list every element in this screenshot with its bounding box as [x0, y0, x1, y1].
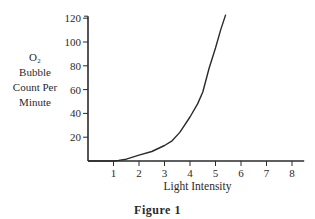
- x-tick-label: 8: [289, 167, 295, 179]
- y-tick-label: 100: [65, 36, 82, 48]
- y-tick-label: 60: [70, 84, 82, 96]
- x-tick-label: 1: [111, 167, 117, 179]
- y-tick-label: 120: [65, 12, 82, 24]
- figure-caption: Figure 1: [0, 203, 315, 218]
- y-tick-label: 80: [70, 60, 82, 72]
- x-tick-label: 3: [162, 167, 168, 179]
- y-tick-label: 40: [70, 107, 82, 119]
- axes: [84, 16, 304, 161]
- data-line: [88, 15, 226, 161]
- x-axis-label: Light Intensity: [130, 180, 265, 192]
- x-tick-label: 6: [238, 167, 244, 179]
- x-tick-label: 7: [264, 167, 270, 179]
- x-tick-label: 2: [136, 167, 142, 179]
- x-axis-ticks: 12345678: [111, 161, 296, 179]
- x-tick-label: 5: [213, 167, 219, 179]
- y-axis-ticks: 20406080100120: [65, 12, 89, 143]
- y-tick-label: 20: [70, 131, 82, 143]
- x-tick-label: 4: [187, 167, 193, 179]
